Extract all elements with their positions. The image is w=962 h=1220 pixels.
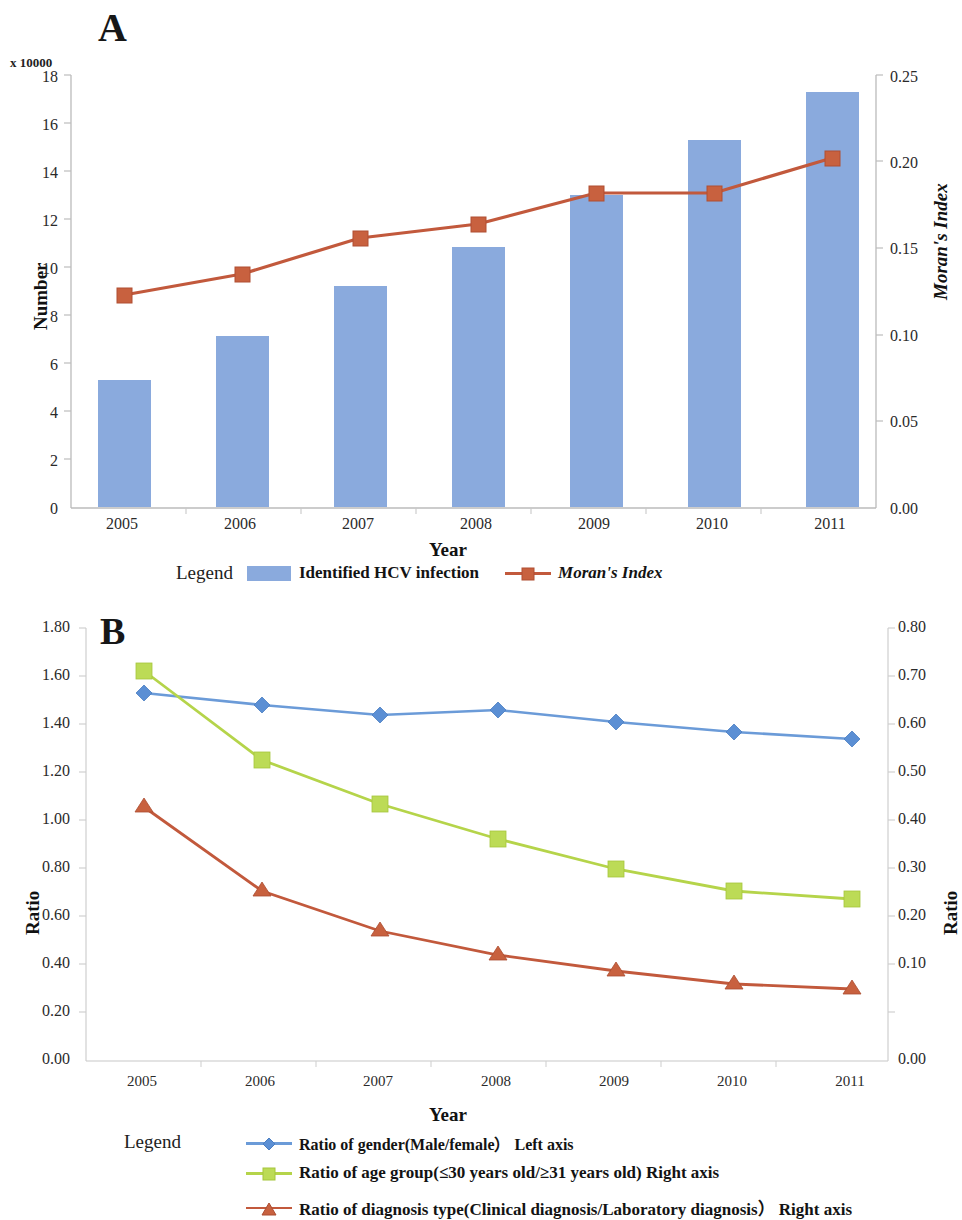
bar-2006: [216, 336, 269, 507]
panel-a-left-ticks: [64, 75, 71, 459]
legend-label-morans-index: Moran's Index: [558, 563, 662, 583]
legend-label-identified-hcv: Identified HCV infection: [299, 563, 479, 583]
panel-b-right-ticks: [888, 628, 895, 1012]
panel-b-xtick: 2009: [569, 1073, 659, 1090]
panel-b-xtick: 2007: [333, 1073, 423, 1090]
panel-b-xtick: 2010: [687, 1073, 777, 1090]
bar-2008: [452, 247, 505, 507]
panel-b-xtick: 2005: [97, 1073, 187, 1090]
bar-2007: [334, 286, 387, 507]
panel-a: A x 10000 Number Moran's Index Year 18 1…: [0, 0, 956, 600]
panel-b-xtick: 2011: [805, 1073, 895, 1090]
line-square-marker-icon: [246, 1166, 292, 1180]
bar-2005: [98, 380, 151, 507]
panel-b-svg: [0, 600, 956, 1070]
panel-b-x-title: Year: [0, 1104, 926, 1126]
legend-item-diagnosis-type[interactable]: Ratio of diagnosis type(Clinical diagnos…: [246, 1195, 878, 1220]
panel-b-series-diagnosis-markers: [135, 798, 861, 994]
panel-b-series-gender-markers: [136, 685, 860, 747]
panel-a-right-ticks: [876, 75, 883, 421]
panel-a-x-ticks: [186, 508, 761, 514]
panel-b-left-ticks: [79, 628, 86, 1012]
panel-b-series-age-markers: [136, 663, 860, 907]
legend-item-identified-hcv[interactable]: Identified HCV infection: [247, 563, 479, 583]
panel-a-svg: [0, 0, 956, 520]
panel-a-legend: Legend Identified HCV infection Moran's …: [176, 562, 688, 584]
bar-swatch-icon: [247, 566, 291, 581]
panel-b-xtick: 2006: [215, 1073, 305, 1090]
panel-b: B Ratio Ratio Year 1.80 1.60 1.40 1.20 1…: [0, 600, 956, 1214]
legend-entry-gender[interactable]: Ratio of gender(Male/female） Left axis: [246, 1131, 574, 1155]
legend-entry-age-group[interactable]: Ratio of age group(≤30 years old/≥31 yea…: [246, 1163, 719, 1183]
legend-label-diagnosis-type: Ratio of diagnosis type(Clinical diagnos…: [299, 1195, 852, 1220]
legend-label-age-group: Ratio of age group(≤30 years old/≥31 yea…: [299, 1163, 719, 1183]
bar-2009: [570, 195, 623, 507]
panel-b-x-ticks: [201, 1061, 776, 1067]
panel-a-bars: [98, 92, 859, 507]
panel-b-legend-title: Legend: [124, 1131, 181, 1153]
panel-a-plot: [0, 0, 956, 520]
legend-item-gender[interactable]: Ratio of gender(Male/female） Left axis: [246, 1131, 574, 1155]
legend-label-gender: Ratio of gender(Male/female） Left axis: [299, 1131, 574, 1155]
panel-b-xtick: 2008: [451, 1073, 541, 1090]
legend-item-morans-index[interactable]: Moran's Index: [505, 563, 662, 583]
legend-entry-diagnosis-type[interactable]: Ratio of diagnosis type(Clinical diagnos…: [246, 1195, 852, 1220]
line-triangle-marker-icon: [246, 1201, 292, 1215]
legend-item-age-group[interactable]: Ratio of age group(≤30 years old/≥31 yea…: [246, 1163, 745, 1183]
panel-b-legend-title-row: Legend: [124, 1131, 195, 1153]
panel-a-legend-title: Legend: [176, 562, 233, 584]
line-square-marker-icon: [505, 566, 551, 580]
panel-a-x-title: Year: [0, 539, 926, 561]
line-diamond-marker-icon: [246, 1136, 292, 1150]
panel-b-plot: [0, 600, 956, 1070]
